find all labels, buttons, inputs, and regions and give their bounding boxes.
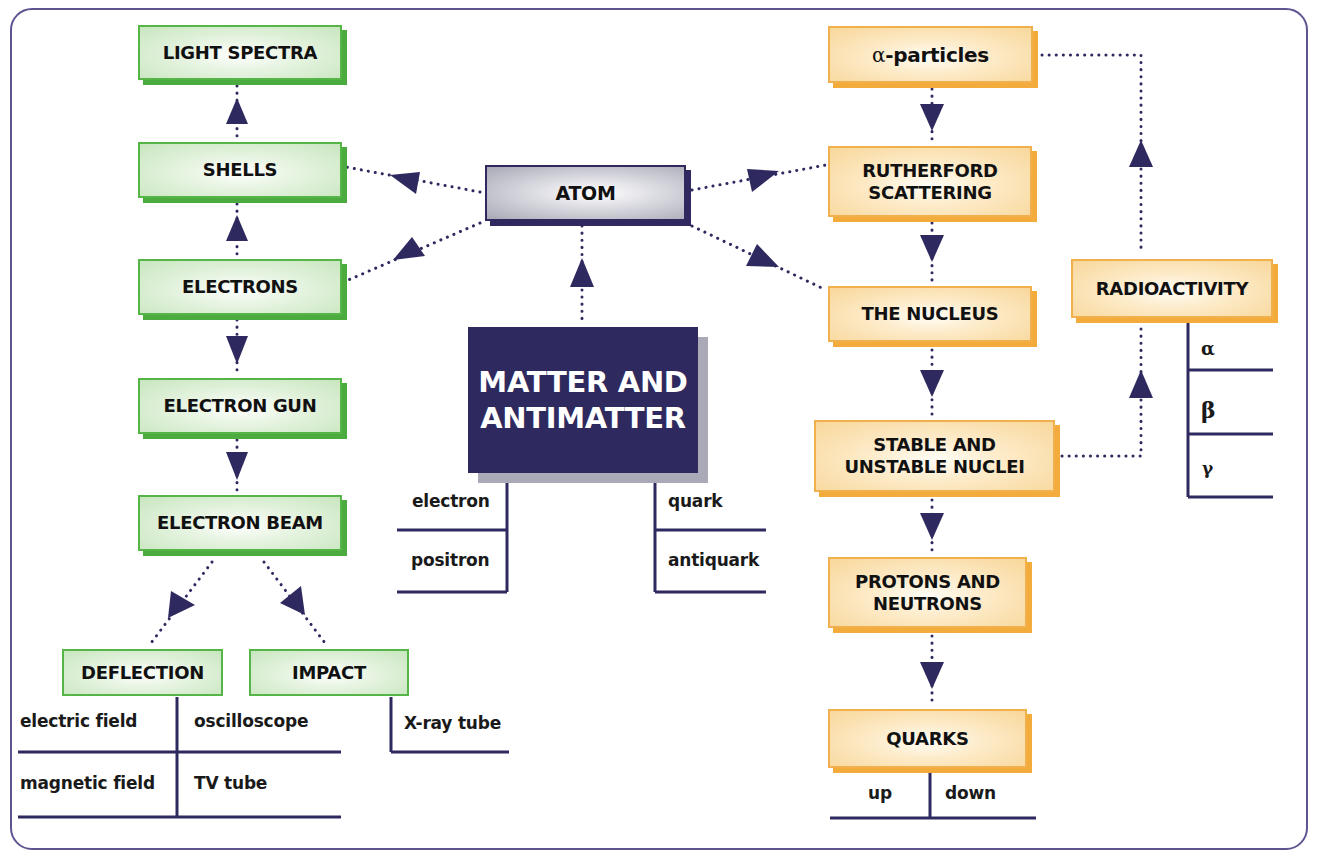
- node-protons-neutrons[interactable]: PROTONS AND NEUTRONS: [828, 557, 1027, 628]
- radiation-beta: β: [1201, 397, 1215, 423]
- node-label: IMPACT: [292, 662, 366, 684]
- node-electron-gun[interactable]: ELECTRON GUN: [138, 378, 342, 434]
- node-electrons[interactable]: ELECTRONS: [138, 259, 342, 315]
- quark-type-down: down: [945, 783, 996, 803]
- node-shells[interactable]: SHELLS: [138, 142, 342, 198]
- node-label-line1: RUTHERFORD: [862, 160, 997, 182]
- node-label: SHELLS: [203, 159, 277, 181]
- quark-type-up: up: [868, 783, 892, 803]
- node-quarks[interactable]: QUARKS: [828, 709, 1027, 768]
- deflection-cause-0: electric field: [20, 711, 137, 731]
- node-label: RADIOACTIVITY: [1096, 278, 1248, 300]
- node-alpha-particles[interactable]: α-particles: [828, 26, 1033, 83]
- deflection-application-1: TV tube: [194, 773, 267, 793]
- matter-item-quark: quark: [668, 491, 722, 511]
- node-label-line2: UNSTABLE NUCLEI: [844, 456, 1024, 478]
- matter-item-electron: electron: [412, 491, 490, 511]
- node-atom[interactable]: ATOM: [485, 165, 686, 221]
- node-matter-and-antimatter[interactable]: MATTER AND ANTIMATTER: [468, 327, 698, 473]
- node-label: THE NUCLEUS: [862, 303, 999, 325]
- node-impact[interactable]: IMPACT: [249, 649, 409, 696]
- node-label: LIGHT SPECTRA: [163, 42, 317, 64]
- node-the-nucleus[interactable]: THE NUCLEUS: [828, 286, 1032, 342]
- node-label: α-particles: [872, 43, 989, 67]
- node-label: QUARKS: [886, 728, 968, 750]
- radiation-alpha: α: [1201, 338, 1215, 359]
- deflection-cause-1: magnetic field: [20, 773, 155, 793]
- node-label: DEFLECTION: [81, 662, 204, 684]
- node-stable-unstable-nuclei[interactable]: STABLE AND UNSTABLE NUCLEI: [814, 420, 1055, 492]
- node-label-line2: NEUTRONS: [873, 593, 982, 615]
- matter-item-positron: positron: [411, 550, 490, 570]
- node-label-line1: STABLE AND: [873, 434, 995, 456]
- central-title-line1: MATTER AND: [478, 364, 687, 400]
- radiation-gamma: γ: [1202, 458, 1213, 478]
- node-deflection[interactable]: DEFLECTION: [62, 649, 223, 696]
- node-label: ATOM: [555, 182, 615, 205]
- deflection-application-0: oscilloscope: [194, 711, 308, 731]
- node-label: ELECTRON GUN: [164, 395, 317, 417]
- alpha-symbol: α: [872, 43, 885, 67]
- node-label-line2: SCATTERING: [868, 182, 991, 204]
- node-label-line1: PROTONS AND: [855, 571, 1000, 593]
- node-radioactivity[interactable]: RADIOACTIVITY: [1071, 259, 1273, 318]
- node-electron-beam[interactable]: ELECTRON BEAM: [138, 495, 342, 551]
- matter-item-antiquark: antiquark: [668, 550, 759, 570]
- central-title-line2: ANTIMATTER: [480, 400, 686, 436]
- node-rutherford-scattering[interactable]: RUTHERFORD SCATTERING: [828, 146, 1032, 217]
- alpha-text: -particles: [885, 43, 989, 67]
- node-label: ELECTRONS: [182, 276, 298, 298]
- node-label: ELECTRON BEAM: [157, 512, 323, 534]
- node-light-spectra[interactable]: LIGHT SPECTRA: [138, 25, 342, 80]
- impact-application-0: X-ray tube: [404, 713, 501, 733]
